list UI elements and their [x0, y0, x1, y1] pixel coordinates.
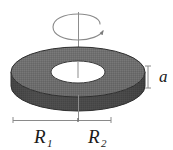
- figure-container: a R 1 R 2: [0, 0, 173, 150]
- outer-radius-subscript: 2: [101, 137, 107, 149]
- rotating-annulus-diagram: a R 1 R 2: [0, 0, 173, 150]
- inner-radius-label-group: R 1: [33, 126, 53, 149]
- thickness-measure: [145, 66, 151, 88]
- inner-radius-label: R: [33, 126, 46, 147]
- inner-radius-subscript: 1: [47, 137, 53, 149]
- outer-radius-label-group: R 2: [87, 126, 107, 149]
- outer-radius-label: R: [87, 126, 100, 147]
- radius-measure: [13, 117, 111, 123]
- thickness-label: a: [159, 67, 168, 86]
